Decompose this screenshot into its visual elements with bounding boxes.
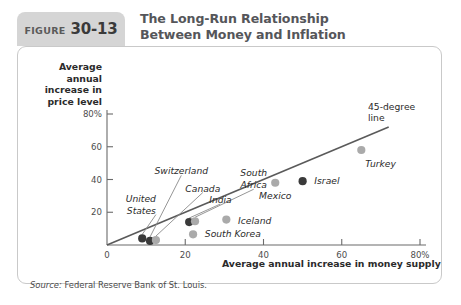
data-point-label: India [209, 194, 232, 205]
x-tick-label: 40 [258, 250, 269, 260]
data-point [271, 179, 279, 187]
data-point-label: Turkey [365, 158, 396, 169]
data-point [152, 236, 160, 244]
y-tick-label: 40 [91, 175, 102, 185]
annotation-layer: 45-degreeline [368, 101, 416, 123]
data-point-label: Canada [185, 183, 220, 194]
data-point-label: Switzerland [155, 165, 209, 176]
data-point-label: South [240, 167, 267, 178]
data-point-label: Mexico [259, 190, 292, 201]
x-tick-label: 0 [104, 250, 109, 260]
data-point [222, 216, 230, 224]
data-label-layer: UnitedStatesSwitzerlandCanadaIndiaSouthA… [126, 158, 397, 239]
data-point [138, 234, 146, 242]
scatter-plot: 20406080%020406080% UnitedStatesSwitzerl… [0, 0, 461, 305]
data-point-label: Iceland [238, 215, 271, 226]
data-point [299, 177, 307, 185]
y-tick-label: 20 [91, 207, 102, 217]
x-tick-label: 20 [180, 250, 191, 260]
data-point [191, 217, 199, 225]
reference-line-label-line-1: 45-degree [368, 101, 416, 112]
x-tick-label: 60 [336, 250, 347, 260]
figure-container: FIGURE 30-13 The Long-Run Relationship B… [0, 0, 461, 305]
data-point-label: Africa [239, 179, 267, 190]
data-point [357, 146, 365, 154]
data-point-label: United [126, 193, 156, 204]
data-point-label: South Korea [205, 228, 261, 239]
y-tick-label: 80% [83, 109, 102, 119]
y-tick-label: 60 [91, 142, 102, 152]
data-point [189, 230, 197, 238]
reference-line-label-line-2: line [368, 112, 385, 123]
x-tick-label: 80% [410, 250, 429, 260]
data-point-label: States [127, 205, 156, 216]
data-point-label: Israel [314, 175, 340, 186]
